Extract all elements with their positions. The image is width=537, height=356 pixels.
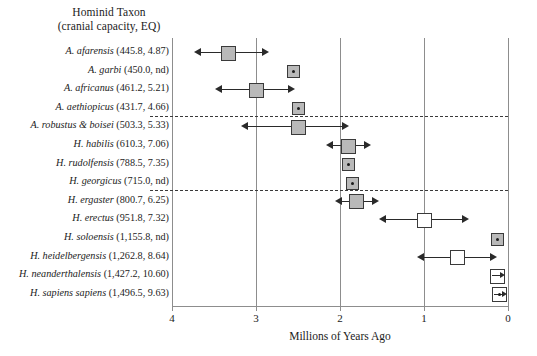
taxon-name: H. soloensis: [64, 231, 116, 242]
range-arrow-right-icon: [262, 48, 269, 56]
x-tick-3: [256, 306, 257, 311]
taxon-metrics: (715.0, nd): [124, 175, 169, 186]
point-estimate-dot: [297, 107, 300, 110]
taxon-metrics: (1,262.8, 8.64): [109, 250, 169, 261]
taxon-name: A. afarensis: [66, 45, 117, 56]
data-marker[interactable]: [450, 250, 465, 265]
data-marker[interactable]: [249, 83, 264, 98]
taxon-metrics: (951.8, 7.32): [116, 212, 169, 223]
range-arrow-left-icon: [241, 122, 248, 130]
plot-area: 43210: [172, 38, 508, 306]
taxon-name: A. africanus: [64, 82, 116, 93]
data-marker[interactable]: [221, 46, 236, 61]
data-row[interactable]: [172, 81, 508, 99]
taxon-name: A. aethiopicus: [56, 101, 117, 112]
data-row[interactable]: [172, 230, 508, 248]
taxon-label: H. neanderthalensis (1,427.2, 10.60): [0, 268, 172, 279]
taxon-name: H. ergaster: [68, 194, 117, 205]
x-tick-label: 1: [414, 312, 434, 324]
taxon-metrics: (461.2, 5.21): [116, 82, 169, 93]
taxon-label: H. rudolfensis (788.5, 7.35): [0, 157, 172, 168]
taxon-label: H. sapiens sapiens (1,496.5, 9.63): [0, 287, 172, 298]
x-tick-4: [172, 306, 173, 311]
taxon-label: A. aethiopicus (431.7, 4.66): [0, 101, 172, 112]
taxon-label: H. georgicus (715.0, nd): [0, 175, 172, 186]
taxon-name: H. erectus: [72, 212, 116, 223]
taxon-metrics: (800.7, 6.25): [116, 194, 169, 205]
range-arrow-right-icon: [372, 197, 379, 205]
data-row[interactable]: [172, 249, 508, 267]
data-row[interactable]: [172, 118, 508, 136]
gridline-0mya: [508, 38, 509, 306]
taxon-label: A. afarensis (445.8, 4.87): [0, 45, 172, 56]
taxon-name: H. sapiens sapiens: [30, 287, 109, 298]
taxon-label: H. soloensis (1,155.8, nd): [0, 231, 172, 242]
inline-arrow-right-icon: [500, 272, 505, 278]
taxon-label: A. garbi (450.0, nd): [0, 64, 172, 75]
data-row[interactable]: [172, 286, 508, 304]
range-arrow-left-icon: [326, 141, 333, 149]
data-marker[interactable]: [291, 120, 306, 135]
taxon-metrics: (788.5, 7.35): [116, 157, 169, 168]
taxon-metrics: (610.3, 7.06): [116, 138, 169, 149]
data-row[interactable]: [172, 137, 508, 155]
inline-arrow-right-icon: [502, 291, 507, 297]
taxon-label: A. africanus (461.2, 5.21): [0, 82, 172, 93]
x-tick-label: 3: [246, 312, 266, 324]
range-arrow-right-icon: [342, 122, 349, 130]
data-marker[interactable]: [341, 139, 356, 154]
taxon-name: A. robustus & boisei: [30, 119, 116, 130]
taxon-metrics: (1,155.8, nd): [116, 231, 169, 242]
range-arrow-right-icon: [364, 141, 371, 149]
x-tick-1: [424, 306, 425, 311]
chart-header-line2: (cranial capacity, EQ): [0, 20, 218, 33]
taxon-name: H. rudolfensis: [56, 157, 116, 168]
taxon-metrics: (431.7, 4.66): [116, 101, 169, 112]
taxon-name: H. heidelbergensis: [30, 250, 109, 261]
data-marker[interactable]: [349, 194, 364, 209]
range-arrow-left-icon: [417, 253, 424, 261]
taxon-name: H. habilis: [74, 138, 117, 149]
data-row[interactable]: [172, 63, 508, 81]
data-row[interactable]: [172, 267, 508, 285]
taxon-label: H. habilis (610.3, 7.06): [0, 138, 172, 149]
x-tick-label: 4: [162, 312, 182, 324]
range-arrow-right-icon: [288, 85, 295, 93]
x-tick-2: [340, 306, 341, 311]
range-arrow-left-icon: [379, 215, 386, 223]
data-row[interactable]: [172, 193, 508, 211]
x-tick-label: 0: [498, 312, 518, 324]
taxon-label: A. robustus & boisei (503.3, 5.33): [0, 119, 172, 130]
data-row[interactable]: [172, 174, 508, 192]
taxon-label: H. heidelbergensis (1,262.8, 8.64): [0, 250, 172, 261]
point-estimate-dot: [347, 163, 350, 166]
taxon-name: A. garbi: [88, 64, 124, 75]
taxon-name: H. neanderthalensis: [19, 268, 104, 279]
range-arrow-left-icon: [215, 85, 222, 93]
data-row[interactable]: [172, 100, 508, 118]
chart-header-line1: Hominid Taxon: [0, 6, 218, 19]
data-marker[interactable]: [417, 213, 432, 228]
data-row[interactable]: [172, 44, 508, 62]
point-estimate-dot: [351, 182, 354, 185]
taxon-metrics: (1,496.5, 9.63): [109, 287, 169, 298]
hominid-taxon-chart: Hominid Taxon (cranial capacity, EQ) A. …: [0, 0, 537, 356]
data-row[interactable]: [172, 211, 508, 229]
taxon-metrics: (445.8, 4.87): [116, 45, 169, 56]
taxon-label: H. erectus (951.8, 7.32): [0, 212, 172, 223]
x-axis-label: Millions of Years Ago: [172, 330, 508, 342]
range-arrow-right-icon: [490, 253, 497, 261]
taxon-metrics: (503.3, 5.33): [116, 119, 169, 130]
x-tick-0: [508, 306, 509, 311]
x-tick-label: 2: [330, 312, 350, 324]
range-arrow-right-icon: [462, 215, 469, 223]
range-arrow-left-icon: [335, 197, 342, 205]
range-arrow-left-icon: [194, 48, 201, 56]
taxon-metrics: (450.0, nd): [124, 64, 169, 75]
taxon-name: H. georgicus: [69, 175, 124, 186]
data-row[interactable]: [172, 156, 508, 174]
taxon-metrics: (1,427.2, 10.60): [104, 268, 169, 279]
taxon-label: H. ergaster (800.7, 6.25): [0, 194, 172, 205]
